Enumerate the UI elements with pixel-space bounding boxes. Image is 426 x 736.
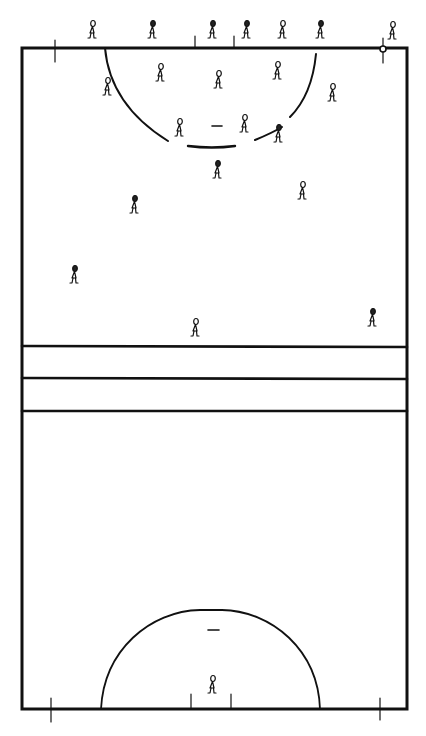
court-diagram — [0, 0, 426, 736]
player-figure — [88, 21, 96, 39]
player-figure — [368, 309, 376, 327]
player-figure — [148, 21, 156, 39]
player-figure — [214, 71, 222, 89]
top-goal-circle-right — [255, 54, 316, 140]
player-figure — [242, 21, 250, 39]
player-figure — [70, 266, 78, 284]
player-figure — [328, 84, 336, 102]
top-goal-circle-mid — [188, 146, 235, 148]
ball — [380, 46, 386, 52]
transverse-line-2 — [22, 378, 407, 379]
player-figure — [208, 676, 216, 694]
player-figure — [240, 115, 248, 133]
transverse-line-1 — [22, 346, 407, 347]
player-figure — [274, 125, 282, 143]
player-figure — [388, 22, 396, 40]
player-figure — [175, 119, 183, 137]
top-goal-circle — [105, 48, 168, 141]
player-figure — [191, 319, 199, 337]
player-figure — [208, 21, 216, 39]
player-figure — [298, 182, 306, 200]
player-figure — [273, 62, 281, 80]
player-figure — [103, 78, 111, 96]
court-drawing — [0, 0, 426, 736]
player-figure — [278, 21, 286, 39]
players-group — [70, 21, 396, 694]
bottom-goal-circle — [101, 610, 320, 709]
player-figure — [316, 21, 324, 39]
player-figure — [213, 161, 221, 179]
player-figure — [130, 196, 138, 214]
player-figure — [156, 64, 164, 82]
